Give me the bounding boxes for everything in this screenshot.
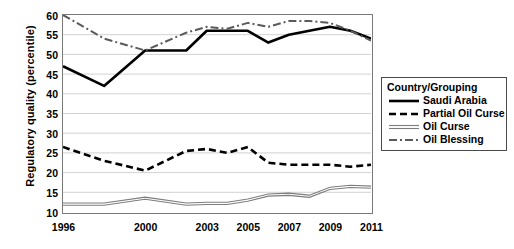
dash-dot-line-icon [387,134,421,146]
solid-line-icon [387,95,421,107]
y-tick-label: 45 [36,70,58,80]
x-tick-label: 2005 [237,221,260,233]
series-line-oil-curse [63,185,371,203]
legend-item-label: Oil Curse [421,120,470,133]
series-line-oil-blessing [63,15,371,50]
legend-item-label: Saudi Arabia [421,94,487,107]
y-tick-label: 60 [36,11,58,21]
x-tick-label: 2009 [319,221,342,233]
x-tick-label: 2007 [278,221,301,233]
double-thin-line-icon [387,121,421,133]
regulatory-quality-line-chart: Regulatory quality (percentile) 60555045… [0,0,514,249]
dashed-line-icon [387,108,421,120]
y-axis-tick-labels: 6055504540353025201510 [36,14,58,214]
legend-item-label: Oil Blessing [421,133,484,146]
plot-lines-svg [63,15,371,212]
y-tick-label: 25 [36,148,58,158]
y-tick-label: 40 [36,89,58,99]
legend-item-saudi-arabia[interactable]: Saudi Arabia [387,94,501,107]
y-tick-label: 55 [36,30,58,40]
y-tick-label: 20 [36,168,58,178]
y-axis-title: Regulatory quality (percentile) [24,6,36,206]
y-tick-label: 50 [36,50,58,60]
legend-item-label: Partial Oil Curse [421,107,505,120]
y-tick-label: 15 [36,188,58,198]
series-line-partial-oil-curse [63,147,371,171]
x-tick-label: 2000 [134,221,157,233]
y-tick-label: 35 [36,109,58,119]
y-tick-label: 30 [36,129,58,139]
x-axis-tick-labels: 1996200020032005200720092011 [0,221,514,237]
legend-item-oil-blessing[interactable]: Oil Blessing [387,133,501,146]
x-tick-label: 2003 [196,221,219,233]
chart-legend: Country/Grouping Saudi ArabiaPartial Oil… [381,77,507,151]
x-tick-label: 1996 [52,221,75,233]
legend-items: Saudi ArabiaPartial Oil CurseOil CurseOi… [387,94,501,146]
plot-area [62,14,373,214]
legend-item-partial-oil-curse[interactable]: Partial Oil Curse [387,107,501,120]
legend-item-oil-curse[interactable]: Oil Curse [387,120,501,133]
legend-title: Country/Grouping [387,81,501,94]
x-tick-label: 2011 [360,221,383,233]
y-tick-label: 10 [36,208,58,218]
series-line-saudi-arabia [63,27,371,86]
